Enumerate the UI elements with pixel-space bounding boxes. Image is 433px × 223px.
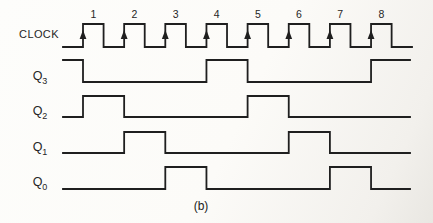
clock-label: CLOCK [19,28,59,40]
trace-q1 [63,132,410,153]
rising-edge-arrow-icon [203,30,210,39]
rising-edge-arrow-icon [327,30,334,39]
clock-pulse-number: 1 [90,8,96,20]
clock-pulse-number: 7 [337,8,343,20]
signal-label-q0-sub: 0 [42,182,47,192]
rising-edge-arrow-icon [368,30,375,39]
clock-pulse-number: 6 [296,8,302,20]
signal-label-q2-sub: 2 [42,111,47,121]
signal-label-q2: Q2 [33,104,48,118]
signal-label-q0-main: Q [33,175,43,189]
trace-q2 [63,96,410,117]
signal-label-q1-sub: 1 [42,147,47,157]
signal-label-q0: Q0 [33,175,48,189]
rising-edge-arrow-icon [121,30,128,39]
figure-caption: (b) [194,199,209,213]
signal-label-q2-main: Q [33,104,43,118]
clock-pulse-number: 3 [173,8,179,20]
timing-diagram: 12345678 CLOCK Q3 Q2 Q1 Q0 (b) [0,0,433,223]
trace-q0 [63,167,410,189]
waveform-svg: 12345678 [0,0,433,223]
clock-pulse-number: 8 [378,8,384,20]
clock-pulse-number: 5 [255,8,261,20]
rising-edge-arrow-icon [162,30,169,39]
clock-trace [63,24,412,47]
signal-label-q3-main: Q [33,69,43,83]
rising-edge-arrow-icon [285,30,292,39]
signal-label-q3: Q3 [33,69,48,83]
signal-label-q1: Q1 [33,140,48,154]
clock-pulse-number: 4 [214,8,220,20]
signal-label-q3-sub: 3 [42,76,47,86]
rising-edge-arrow-icon [244,30,251,39]
clock-pulse-number: 2 [131,8,137,20]
trace-q3 [63,60,410,82]
signal-label-q1-main: Q [33,140,43,154]
rising-edge-arrow-icon [80,30,87,39]
